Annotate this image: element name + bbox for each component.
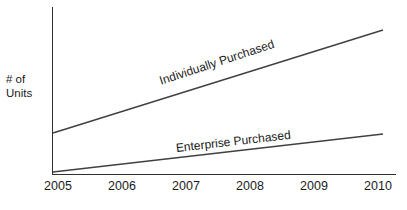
x-tick-label-2006: 2006 <box>100 179 144 194</box>
x-tick-label-2010: 2010 <box>356 179 400 194</box>
series-line-individually-purchased <box>53 30 383 133</box>
figure-caption <box>3 201 405 210</box>
line-chart-figure: # of Units 2005 2006 2007 2008 2009 2010… <box>0 0 407 210</box>
x-tick-label-2007: 2007 <box>164 179 208 194</box>
x-tick-label-2005: 2005 <box>36 179 80 194</box>
x-tick-label-2008: 2008 <box>228 179 272 194</box>
x-tick-label-2009: 2009 <box>292 179 336 194</box>
y-axis-label: # of Units <box>6 72 48 100</box>
x-axis-tick-labels: 2005 2006 2007 2008 2009 2010 <box>47 179 399 195</box>
